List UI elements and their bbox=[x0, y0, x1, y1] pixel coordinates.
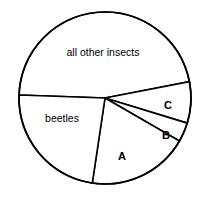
pie-label-beetles: beetles bbox=[45, 112, 79, 124]
pie-label-all-other-insects: all other insects bbox=[67, 46, 140, 58]
pie-slice-beetles[interactable] bbox=[19, 95, 105, 183]
pie-chart-figure: all other insectsCBAbeetles bbox=[0, 0, 209, 198]
pie-label-c: C bbox=[164, 99, 172, 111]
pie-label-a: A bbox=[118, 150, 126, 162]
pie-label-b: B bbox=[162, 129, 170, 141]
pie-chart-svg: all other insectsCBAbeetles bbox=[0, 0, 209, 198]
